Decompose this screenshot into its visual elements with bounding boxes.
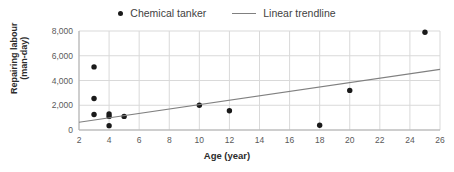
x-axis-title: Age (year) — [0, 150, 454, 161]
y-axis-title-line1: Repairing labour — [9, 8, 19, 108]
y-tick-label: 8,000 — [52, 26, 74, 36]
x-tick-label: 20 — [345, 135, 355, 145]
x-tick-label: 22 — [375, 135, 385, 145]
x-tick-label: 6 — [137, 135, 142, 145]
x-tick-label: 10 — [195, 135, 205, 145]
data-point-marker — [106, 123, 111, 128]
data-point-marker — [422, 30, 427, 35]
x-tick-label: 14 — [255, 135, 265, 145]
x-tick-label: 24 — [405, 135, 415, 145]
x-tick-label: 4 — [107, 135, 112, 145]
y-axis-title: Repairing labour (man-day) — [9, 8, 30, 108]
y-tick-label: 6,000 — [52, 51, 74, 61]
plot-area: 02,0004,0006,0008,0002468101214161820222… — [0, 0, 454, 172]
data-point-marker — [317, 123, 322, 128]
x-tick-label: 2 — [77, 135, 82, 145]
x-tick-label: 12 — [225, 135, 235, 145]
data-point-marker — [91, 96, 96, 101]
data-point-marker — [227, 108, 232, 113]
x-tick-label: 26 — [435, 135, 445, 145]
x-tick-label: 18 — [315, 135, 325, 145]
y-tick-label: 4,000 — [52, 76, 74, 86]
x-tick-label: 8 — [167, 135, 172, 145]
x-tick-label: 16 — [285, 135, 295, 145]
y-axis-title-line2: (man-day) — [19, 8, 29, 108]
data-point-marker — [91, 64, 96, 69]
data-point-marker — [91, 112, 96, 117]
data-point-marker — [347, 88, 352, 93]
y-tick-label: 0 — [68, 125, 73, 135]
scatter-plot-svg: 02,0004,0006,0008,0002468101214161820222… — [0, 0, 454, 172]
chart-figure: Chemical tanker Linear trendline 02,0004… — [0, 0, 454, 172]
y-tick-label: 2,000 — [52, 100, 74, 110]
